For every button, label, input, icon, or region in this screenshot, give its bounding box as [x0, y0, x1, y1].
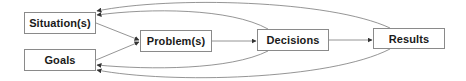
edge-situations-to-problems — [96, 23, 139, 40]
node-results: Results — [373, 28, 445, 49]
edge-goals-to-problems — [96, 42, 139, 60]
edge-decisions-to-goals — [97, 51, 268, 68]
node-problems: Problem(s) — [140, 30, 212, 52]
node-label: Situation(s) — [29, 17, 91, 29]
node-decisions: Decisions — [257, 29, 329, 51]
node-situations: Situation(s) — [24, 12, 96, 34]
node-label: Decisions — [267, 34, 320, 46]
edge-decisions-to-situations — [97, 11, 268, 29]
node-goals: Goals — [24, 49, 96, 71]
node-label: Results — [389, 33, 429, 45]
edge-results-to-situations — [97, 2, 390, 28]
edge-results-to-goals — [97, 49, 390, 78]
node-label: Problem(s) — [147, 35, 205, 47]
node-label: Goals — [44, 54, 75, 66]
